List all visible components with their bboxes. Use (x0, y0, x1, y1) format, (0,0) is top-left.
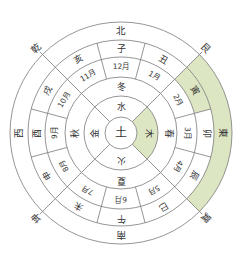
sector-divider (31, 147, 67, 157)
center-label: 土 (115, 127, 127, 139)
direction-label-west: 西 (14, 128, 24, 138)
month-label: 9月 (51, 127, 59, 139)
season-label: 春 (163, 129, 172, 138)
direction-label-east: 東 (218, 128, 228, 138)
sector-divider (31, 109, 67, 119)
five-elements-wheel: 土 水 木 火 金 冬 春 夏 秋 12月 1月 2月 3月 4月 5月 6月 … (0, 0, 250, 262)
sector-divider (40, 199, 56, 215)
sector-divider (175, 109, 211, 119)
season-label: 夏 (117, 175, 126, 184)
sector-divider (135, 187, 145, 223)
sector-divider (40, 52, 56, 68)
element-label: 金 (90, 129, 99, 138)
branch-label: 午 (117, 213, 126, 222)
branch-label: 卯 (201, 129, 210, 138)
season-label: 秋 (70, 129, 79, 138)
element-label: 木 (143, 129, 152, 138)
sector-divider (135, 43, 145, 79)
sector-divider (97, 43, 107, 79)
sector-divider (97, 187, 107, 223)
direction-label-south: 南 (116, 230, 126, 240)
sector-divider (81, 144, 109, 172)
branch-label: 子 (117, 44, 126, 53)
sector-divider (175, 147, 211, 157)
direction-label-north: 北 (116, 26, 126, 36)
month-label: 3月 (183, 127, 191, 139)
season-label: 冬 (117, 82, 126, 91)
branch-label: 酉 (32, 129, 41, 138)
month-label: 12月 (113, 63, 130, 71)
month-label: 6月 (115, 195, 127, 203)
element-label: 水 (117, 102, 126, 111)
sector-divider (81, 93, 109, 121)
element-label: 火 (117, 155, 126, 164)
